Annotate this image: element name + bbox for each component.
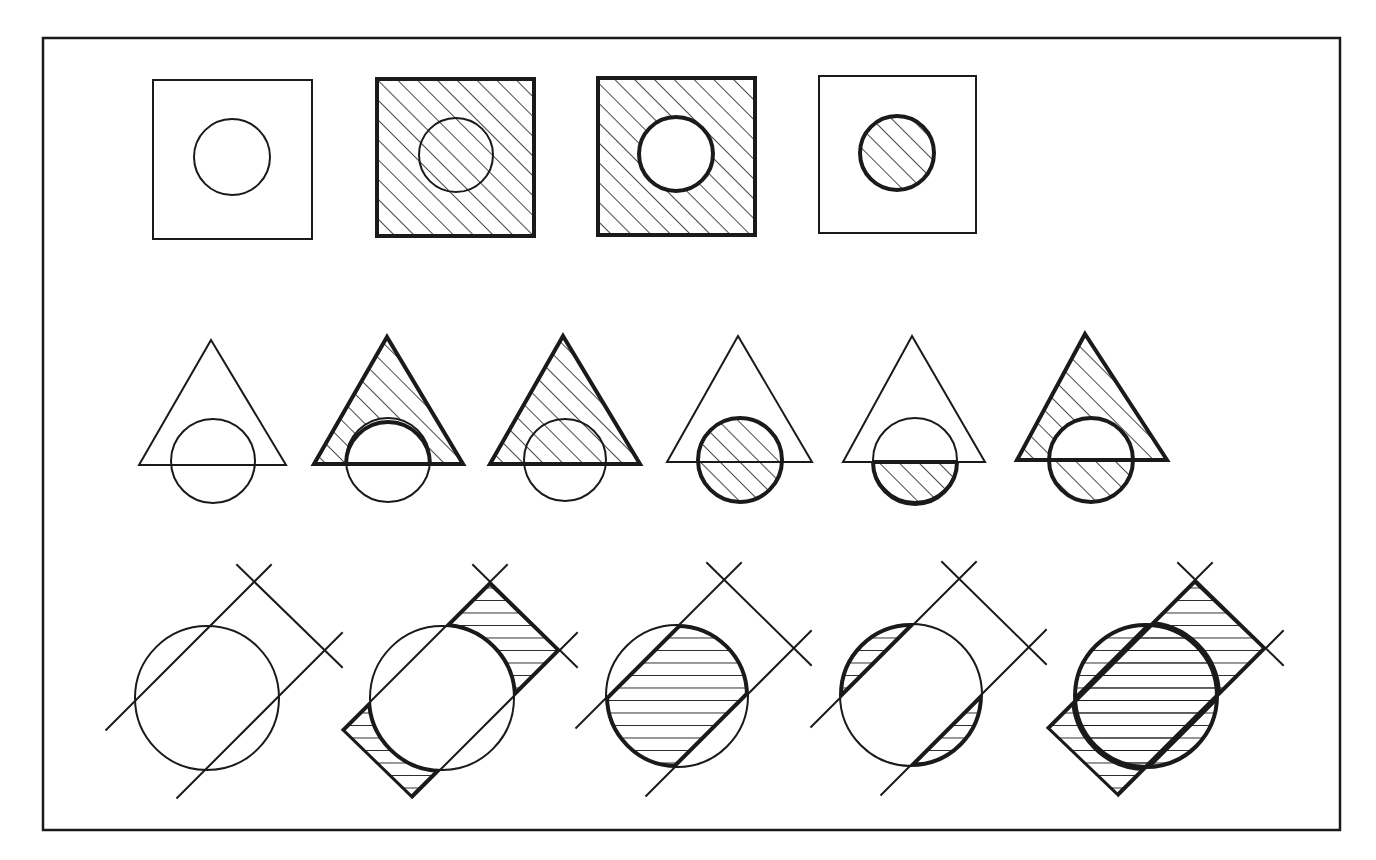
strip-circle-st5 <box>1047 562 1284 796</box>
triangle-circle-tr2 <box>314 337 463 502</box>
triangle-circle-tr1 <box>139 340 286 503</box>
strip-edge-left <box>106 564 272 730</box>
strip-circle-st4 <box>811 561 1047 795</box>
square-outline <box>153 80 312 239</box>
hatched-region <box>314 337 463 464</box>
diagram-canvas: Set operations on shapes (hatched = sele… <box>0 0 1376 860</box>
triangle-circle-tr6 <box>1017 334 1167 502</box>
circle-outline <box>135 626 279 770</box>
circle-outline <box>194 119 270 195</box>
hatched-region <box>490 336 640 464</box>
triangle-circle-tr4 <box>667 336 812 502</box>
triangle-circle-tr5 <box>843 336 985 504</box>
set-operations-figure: Set operations on shapes (hatched = sele… <box>0 0 1376 860</box>
strip-circle-st3 <box>576 562 812 796</box>
square-circle-sq1 <box>153 80 312 239</box>
row-strips <box>106 561 1284 798</box>
triangle-outline <box>139 340 286 465</box>
row-squares <box>153 76 976 239</box>
hatched-region <box>598 78 755 235</box>
strip-edge-right <box>177 632 343 798</box>
triangle-circle-tr3 <box>490 336 640 501</box>
square-circle-sq3 <box>598 78 755 235</box>
row-triangles <box>139 334 1167 504</box>
circle-outline <box>171 419 255 503</box>
square-circle-sq2 <box>377 79 534 236</box>
strip-circle-st1 <box>106 564 343 798</box>
strip-cap-line <box>236 564 342 667</box>
strip-circle-st2 <box>342 564 578 798</box>
hatched-region <box>377 79 534 236</box>
square-circle-sq4 <box>819 76 976 233</box>
